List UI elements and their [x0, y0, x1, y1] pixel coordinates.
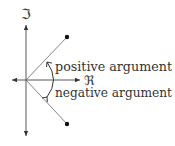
complex-plane-diagram: ℑ ℜ positive argument negative argument: [0, 0, 175, 146]
upper-point: [65, 35, 69, 39]
imaginary-axis-label: ℑ: [21, 6, 31, 22]
negative-argument-label: negative argument: [55, 85, 172, 100]
argument-arc-arrow: [47, 62, 54, 97]
positive-argument-label: positive argument: [55, 59, 172, 74]
lower-point: [65, 122, 69, 126]
